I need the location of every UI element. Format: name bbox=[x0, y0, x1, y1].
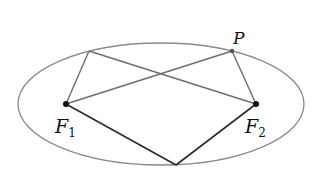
segment-p-f1 bbox=[66, 51, 232, 104]
segment-f2-r bbox=[176, 104, 256, 165]
ellipse-diagram: P F1 F2 bbox=[0, 0, 324, 183]
segment-q-f1 bbox=[66, 51, 89, 104]
segment-p-f2 bbox=[232, 51, 256, 104]
ellipse bbox=[18, 43, 304, 165]
segment-f1-r bbox=[66, 104, 176, 165]
label-f1: F1 bbox=[54, 115, 76, 140]
focus-f1-point bbox=[63, 101, 69, 107]
segment-q-f2 bbox=[89, 51, 256, 104]
point-p bbox=[230, 49, 234, 53]
label-f2: F2 bbox=[244, 115, 266, 140]
focus-f2-point bbox=[253, 101, 259, 107]
label-p: P bbox=[232, 28, 245, 48]
